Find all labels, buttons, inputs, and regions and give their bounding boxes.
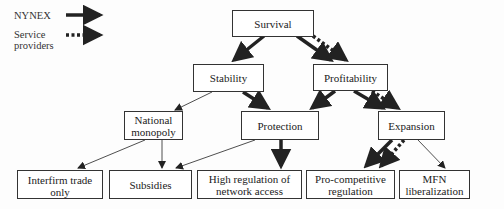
node-national-monopoly: National monopoly	[124, 111, 183, 140]
node-subsidies: Subsidies	[109, 170, 192, 199]
legend-nynex-label: NYNEX	[14, 10, 51, 21]
node-stability: Stability	[193, 64, 264, 92]
node-high-regulation: High regulation of network access	[197, 170, 302, 199]
node-expansion: Expansion	[378, 111, 445, 140]
node-mfn-liberalization: MFN liberalization	[399, 170, 470, 199]
node-survival: Survival	[232, 10, 314, 37]
node-profitability: Profitability	[313, 64, 388, 91]
node-protection: Protection	[241, 111, 319, 140]
diagram: NYNEX Service providers Survival Stabili…	[0, 0, 504, 209]
node-pro-competitive-regulation: Pro-competitive regulation	[306, 170, 395, 199]
node-interfirm-trade: Interfirm trade only	[17, 170, 103, 199]
legend-service-label: Service providers	[14, 29, 54, 51]
